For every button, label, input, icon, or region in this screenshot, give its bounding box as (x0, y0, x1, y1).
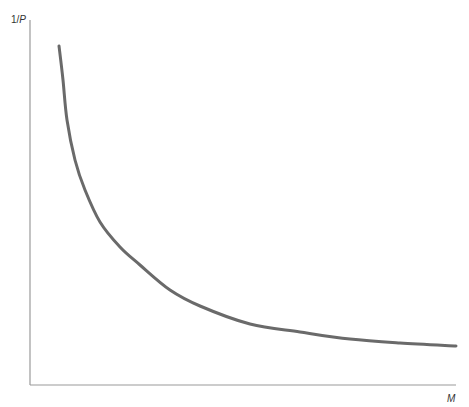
y-axis-label-var: P (19, 14, 26, 25)
x-axis-label: M (447, 393, 455, 404)
y-axis-label: 1/P (11, 14, 26, 25)
chart-canvas (0, 0, 469, 407)
demand-curve (59, 46, 456, 346)
